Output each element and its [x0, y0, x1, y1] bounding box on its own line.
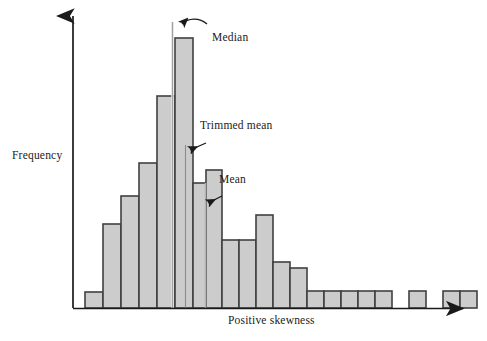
bar [273, 262, 290, 308]
bar [409, 291, 426, 308]
bar [307, 291, 324, 308]
x-axis-label: Positive skewness [228, 314, 315, 326]
median-arrow [182, 19, 207, 24]
bar [460, 291, 477, 308]
bar [103, 224, 121, 308]
trimmed-mean-annotation-label: Trimmed mean [200, 119, 273, 131]
bar [375, 291, 392, 308]
bar [256, 215, 273, 308]
y-axis-label: Frequency [12, 149, 62, 161]
median-annotation-label: Median [212, 31, 248, 43]
bar [139, 163, 157, 308]
bar [193, 183, 206, 308]
histogram-svg [0, 0, 487, 341]
mean-annotation-label: Mean [219, 173, 246, 185]
bar [85, 292, 103, 308]
bar [358, 291, 375, 308]
bar [324, 291, 341, 308]
bar [206, 170, 222, 308]
bar [443, 291, 460, 308]
bar [290, 268, 307, 308]
bar [239, 240, 256, 308]
bars-group [85, 38, 477, 308]
bar [222, 240, 239, 308]
bar [341, 291, 358, 308]
bar [175, 38, 193, 308]
bar [121, 196, 139, 308]
